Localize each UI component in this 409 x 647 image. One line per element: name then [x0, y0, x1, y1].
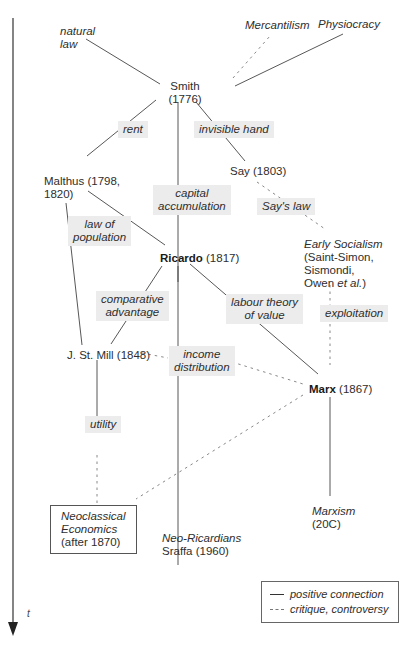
dashed-line-icon: [270, 609, 284, 610]
solid-line-icon: [270, 594, 284, 595]
edge-label-exploitation: exploitation: [320, 305, 388, 322]
early-socialism-title: Early Socialism: [304, 238, 383, 251]
node-marx: Marx (1867): [309, 383, 372, 396]
smith-name: Smith: [161, 80, 209, 93]
neo-ricardians-line2: Sraffa (1960): [162, 545, 241, 558]
time-axis-label: t: [27, 608, 30, 619]
marxism-line2: (20C): [312, 518, 355, 531]
malthus-line2: 1820): [44, 188, 120, 201]
early-socialism-line4: Owen et al.): [304, 277, 383, 290]
early-socialism-line2: (Saint-Simon,: [304, 251, 383, 264]
labour-theory-line2: of value: [231, 309, 298, 322]
node-natural-law: natural law: [60, 25, 95, 51]
capital-accumulation-line2: accumulation: [158, 200, 226, 213]
node-malthus: Malthus (1798, 1820): [44, 175, 120, 201]
edge-label-labour-theory: labour theory of value: [226, 294, 303, 324]
close-paren: ): [362, 277, 366, 289]
node-say: Say (1803): [230, 165, 286, 178]
edge-label-income-distribution: income distribution: [169, 346, 235, 376]
ricardo-year: (1817): [203, 252, 239, 264]
comparative-advantage-line1: comparative: [101, 293, 164, 306]
node-mercantilism: Mercantilism: [245, 19, 310, 32]
legend-solid-label: positive connection: [290, 587, 384, 601]
malthus-line1: Malthus (1798,: [44, 175, 120, 188]
capital-accumulation-line1: capital: [158, 187, 226, 200]
node-neo-ricardians: Neo-Ricardians Sraffa (1960): [162, 532, 241, 558]
edge-label-utility: utility: [85, 416, 121, 433]
legend-dashed-label: critique, controversy: [290, 602, 388, 616]
early-socialism-line3: Sismondi,: [304, 264, 383, 277]
comparative-advantage-line2: advantage: [101, 306, 164, 319]
marxism-line1: Marxism: [312, 505, 355, 518]
node-marxism: Marxism (20C): [312, 505, 355, 531]
node-smith: Smith (1776): [161, 80, 209, 106]
marx-year: (1867): [336, 383, 372, 395]
natural-law-line2: law: [60, 38, 95, 51]
neoclassical-line2: Economics: [61, 523, 126, 536]
edge-label-says-law: Say's law: [257, 198, 315, 215]
labour-theory-line1: labour theory: [231, 296, 298, 309]
node-neoclassical-economics: Neoclassical Economics (after 1870): [50, 505, 137, 554]
edge-label-rent: rent: [118, 121, 148, 138]
edge-label-comparative-advantage: comparative advantage: [96, 291, 169, 321]
edge-label-capital-accumulation: capital accumulation: [153, 185, 231, 215]
neoclassical-line1: Neoclassical: [61, 510, 126, 523]
legend-solid: positive connection: [270, 587, 384, 601]
edge-label-invisible-hand: invisible hand: [194, 121, 274, 138]
owen-text: Owen: [304, 277, 337, 289]
legend-dashed: critique, controversy: [270, 602, 388, 616]
node-early-socialism: Early Socialism (Saint-Simon, Sismondi, …: [304, 238, 383, 290]
neoclassical-line3: (after 1870): [61, 536, 126, 549]
income-distribution-line1: income: [174, 348, 230, 361]
income-distribution-line2: distribution: [174, 361, 230, 374]
law-of-population-line1: law of: [73, 218, 126, 231]
et-al-text: et al.: [337, 277, 362, 289]
law-of-population-line2: population: [73, 231, 126, 244]
node-mill: J. St. Mill (1848): [67, 349, 150, 362]
node-physiocracy: Physiocracy: [318, 18, 380, 31]
natural-law-line1: natural: [60, 25, 95, 38]
edge-label-law-of-population: law of population: [68, 216, 131, 246]
legend: positive connection critique, controvers…: [261, 581, 399, 623]
node-ricardo: Ricardo (1817): [160, 252, 239, 265]
ricardo-name: Ricardo: [160, 252, 203, 264]
neo-ricardians-line1: Neo-Ricardians: [162, 532, 241, 545]
marx-name: Marx: [309, 383, 336, 395]
smith-year: (1776): [161, 93, 209, 106]
